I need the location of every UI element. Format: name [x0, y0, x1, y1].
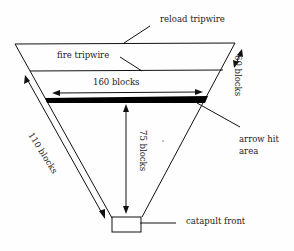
reload-tripwire-line: [15, 43, 235, 44]
hit-area-leader: [197, 103, 240, 127]
trapezoid-diagram: [0, 0, 294, 251]
fire-leader: [120, 57, 142, 71]
reload-tripwire-label: reload tripwire: [160, 15, 225, 25]
left-edge: [15, 44, 112, 218]
width-label: 160 blocks: [93, 78, 139, 88]
arrow-hit-area-bar: [45, 96, 208, 103]
arrow-hit-area-label-2: area: [239, 147, 258, 157]
fire-tripwire-label: fire tripwire: [57, 51, 109, 61]
reload-leader: [124, 26, 150, 43]
diagram-canvas: reload tripwire fire tripwire 160 blocks…: [0, 0, 294, 251]
width-arrow-line: [58, 92, 198, 93]
catapult-box: [112, 217, 141, 232]
center-height-label: 75 blocks: [137, 130, 147, 171]
height-right-label: 60 blocks: [232, 55, 242, 96]
arrow-hit-area-label-1: arrow hit: [239, 135, 279, 145]
right-edge: [142, 43, 235, 217]
fire-tripwire-line: [30, 70, 223, 71]
catapult-front-label: catapult front: [186, 217, 245, 227]
